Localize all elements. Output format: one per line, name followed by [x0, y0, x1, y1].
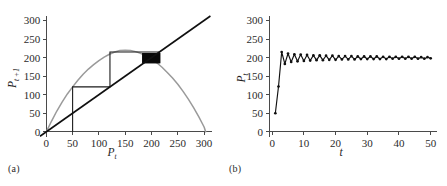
svg-text:150: 150	[117, 137, 134, 149]
panel-a-data	[40, 16, 210, 136]
figure-container: 050100150200250300 050100150200250300 Pt…	[0, 0, 447, 186]
svg-text:200: 200	[24, 52, 41, 64]
panel-a-identity-line	[40, 16, 210, 136]
panel-b-x-tick-marks	[272, 132, 430, 136]
svg-text:50: 50	[252, 107, 264, 119]
panel-b-axes	[266, 16, 438, 137]
panel-b-x-axis-title: t	[339, 146, 343, 158]
svg-text:100: 100	[24, 89, 41, 101]
svg-text:200: 200	[143, 137, 160, 149]
panel-a-cobweb-plot: 050100150200250300 050100150200250300 Pt…	[0, 0, 224, 186]
svg-text:10: 10	[298, 137, 310, 149]
panel-a-y-tick-marks	[43, 20, 47, 131]
svg-text:0: 0	[44, 137, 50, 149]
svg-text:300: 300	[247, 14, 264, 26]
panel-a-x-tick-labels: 050100150200250300	[44, 137, 213, 149]
svg-text:30: 30	[362, 137, 374, 149]
panel-b-x-tick-labels: 01020304050	[269, 137, 436, 149]
panel-a-cobweb-trajectory	[73, 52, 160, 132]
svg-text:250: 250	[170, 137, 187, 149]
panel-a-label: (a)	[8, 163, 20, 174]
panel-b-data	[274, 51, 432, 115]
panel-a-x-tick-marks	[46, 132, 204, 136]
panel-b-timeseries-plot: 01020304050 050100150200250300 t Pt (b)	[223, 0, 447, 186]
panel-a-y-axis-title: Pt +1	[6, 68, 21, 89]
panel-b-label: (b)	[229, 163, 241, 174]
svg-text:100: 100	[91, 137, 108, 149]
svg-text:40: 40	[393, 137, 405, 149]
svg-text:300: 300	[24, 14, 41, 26]
panel-b-svg: 01020304050 050100150200250300 t Pt	[223, 0, 447, 186]
svg-text:0: 0	[35, 126, 41, 138]
panel-b-y-tick-marks	[266, 20, 270, 131]
svg-text:150: 150	[24, 70, 41, 82]
panel-a-recruitment-curve	[46, 50, 205, 132]
svg-text:100: 100	[247, 89, 264, 101]
svg-text:50: 50	[67, 137, 79, 149]
panel-b-data-point-markers	[274, 51, 432, 115]
panel-a-x-axis-title: Pt	[106, 146, 117, 161]
svg-text:250: 250	[247, 33, 264, 45]
svg-text:0: 0	[269, 137, 275, 149]
panel-a-y-tick-labels: 050100150200250300	[24, 14, 41, 137]
panel-a-axes	[43, 16, 212, 137]
svg-text:0: 0	[258, 126, 264, 138]
svg-text:250: 250	[24, 33, 41, 45]
svg-text:50: 50	[425, 137, 437, 149]
svg-text:200: 200	[247, 52, 264, 64]
svg-text:300: 300	[196, 137, 213, 149]
svg-text:50: 50	[29, 107, 41, 119]
panel-a-svg: 050100150200250300 050100150200250300 Pt…	[0, 0, 224, 186]
